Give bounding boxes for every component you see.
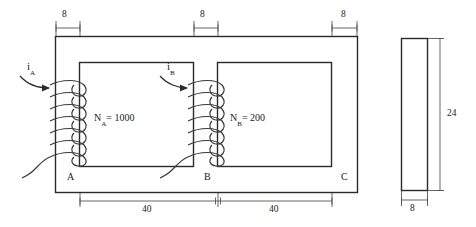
top-dimension-lines bbox=[56, 21, 357, 36]
current-label-b: iB bbox=[167, 61, 175, 75]
dimension-label-right-limb: 8 bbox=[341, 10, 346, 20]
transformer-diagram: 8 8 8 40 40 24 8 A B C iA iB NA= 1000 NB… bbox=[0, 0, 476, 227]
dimension-label-side-width: 8 bbox=[410, 204, 415, 214]
winding-b-subscript: B bbox=[237, 120, 242, 128]
coil-b-winding bbox=[160, 81, 224, 179]
current-arrow-a bbox=[20, 76, 49, 88]
winding-label-b: NB= 200 bbox=[230, 113, 265, 126]
winding-label-a: NA= 1000 bbox=[94, 113, 134, 126]
winding-a-value: = 1000 bbox=[106, 112, 134, 123]
current-arrow-b bbox=[160, 76, 187, 88]
dimension-label-left-window: 40 bbox=[142, 205, 152, 215]
node-label-a: A bbox=[67, 172, 74, 182]
node-label-b: B bbox=[204, 172, 211, 182]
coil-a-winding bbox=[22, 81, 86, 179]
side-dimension-lines bbox=[402, 39, 445, 207]
current-label-a: iA bbox=[27, 61, 35, 75]
dimension-label-side-height: 24 bbox=[447, 109, 457, 119]
dimension-label-left-limb: 8 bbox=[62, 10, 67, 20]
winding-a-subscript: A bbox=[101, 120, 106, 128]
current-a-subscript: A bbox=[30, 69, 35, 77]
side-view-bar bbox=[402, 39, 428, 191]
dimension-label-center-limb: 8 bbox=[200, 10, 205, 20]
dimension-label-right-window: 40 bbox=[269, 205, 279, 215]
current-b-subscript: B bbox=[170, 69, 175, 77]
node-label-c: C bbox=[341, 172, 348, 182]
winding-b-value: = 200 bbox=[242, 112, 265, 123]
bottom-dimension-lines bbox=[80, 193, 332, 207]
